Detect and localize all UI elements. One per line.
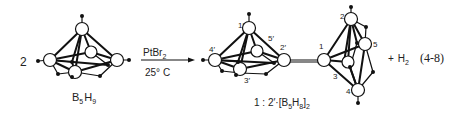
reactant-b5h9-structure [36,14,131,79]
atom-label-2: 2 [340,12,345,21]
hydrogen-atom [70,60,74,64]
hydrogen-atom [70,75,74,79]
boron-atom [76,23,89,36]
hydrogen-atom [106,63,110,67]
atom-label-5prime: 5′ [268,34,274,43]
atom-label-1: 1 [319,42,324,51]
reagent-label: PtBr2 [143,47,166,60]
arrow-head-icon [188,58,195,63]
condition-label: 25° C [145,67,170,78]
hydrogen-atom [56,72,60,76]
byproduct-label: +H2 [388,53,409,66]
hydrogen-atom [80,14,84,18]
product-label: 1 : 2′·[B5H8]2 [254,97,310,110]
atom-label-3prime: 3′ [244,76,250,85]
hydrogen-atom [36,59,40,63]
atom-label-3: 3 [333,72,338,81]
reaction-diagram: 2 [0,0,460,126]
reactant-label: B5H9 [72,91,96,105]
coefficient: 2 [20,55,27,69]
atom-label-4prime: 4′ [209,45,215,54]
atom-label-4: 4 [346,87,351,96]
boron-atom [85,46,97,58]
atom-label-2prime: 2′ [280,43,286,52]
boron-atom [111,54,124,67]
hydrogen-atom [98,74,102,78]
equation-number: (4-8) [420,51,444,65]
product-left-cage [201,12,321,77]
hydrogen-atom [127,58,131,62]
boron-atom [44,54,57,67]
atom-label-1prime: 1′ [238,21,244,30]
atom-label-5: 5 [373,40,378,49]
